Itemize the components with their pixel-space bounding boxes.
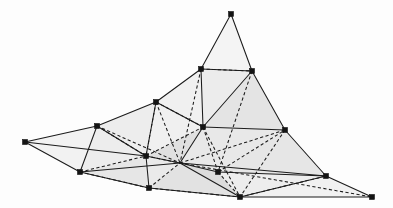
mesh-vertex-marker (144, 154, 149, 159)
mesh-vertex-marker (154, 100, 159, 105)
mesh-vertex-marker (229, 12, 234, 17)
mesh-vertex-marker (78, 170, 83, 175)
mesh-vertex-marker (216, 170, 221, 175)
mesh-vertex-marker (147, 186, 152, 191)
mesh-vertex-marker (23, 140, 28, 145)
mesh-canvas (0, 0, 393, 208)
mesh-vertex-marker (199, 67, 204, 72)
mesh-vertex-marker (324, 174, 329, 179)
mesh-vertex-marker (283, 128, 288, 133)
mesh-vertex-marker (370, 195, 375, 200)
mesh-vertex-marker (95, 124, 100, 129)
mesh-vertex-marker (250, 69, 255, 74)
mesh-vertex-marker (201, 125, 206, 130)
mesh-figure (0, 0, 393, 208)
mesh-vertex-marker (238, 195, 243, 200)
